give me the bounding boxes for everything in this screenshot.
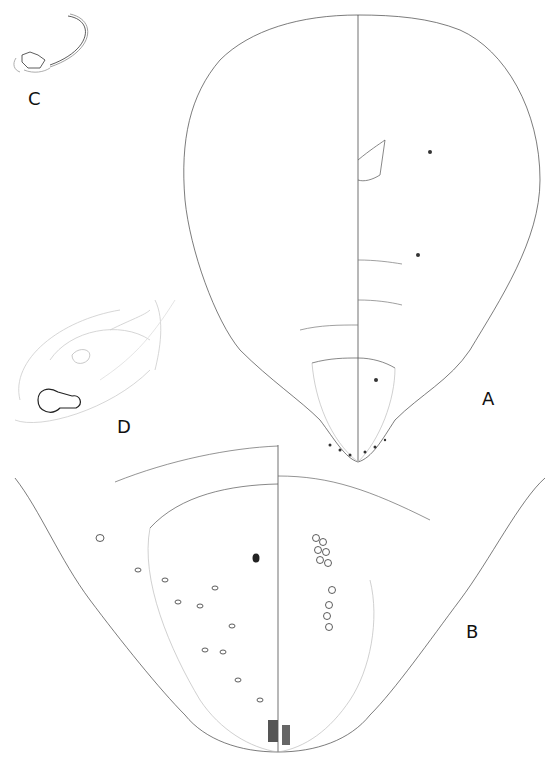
figure-plate xyxy=(0,0,557,759)
panel-c-drawing xyxy=(14,14,88,72)
panel-label-a: A xyxy=(482,390,494,408)
panel-d-drawing xyxy=(15,300,175,423)
panel-label-d: D xyxy=(117,418,131,436)
panel-label-b: B xyxy=(466,623,478,641)
panel-b-drawing xyxy=(15,445,545,752)
panel-a-setae xyxy=(329,150,433,457)
panel-b-pores xyxy=(96,535,336,703)
panel-label-c: C xyxy=(28,90,41,108)
panel-b-spines xyxy=(253,554,291,746)
